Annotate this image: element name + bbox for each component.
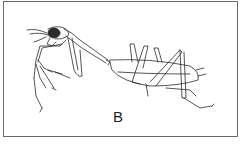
abdomen bbox=[110, 60, 206, 86]
hind-legs bbox=[130, 44, 212, 108]
antennae bbox=[27, 29, 48, 42]
panel-label: B bbox=[108, 108, 128, 126]
prothorax bbox=[64, 29, 110, 65]
raptorial-forelegs bbox=[34, 38, 82, 108]
